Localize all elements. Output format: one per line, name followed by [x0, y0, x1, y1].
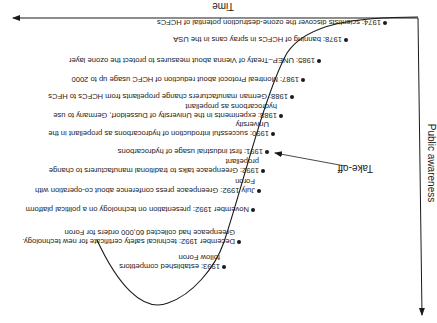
event-marker — [317, 59, 321, 63]
event-marker — [301, 78, 305, 82]
event-label: 1985: UNEP–Treaty of Vienna about measur… — [68, 56, 315, 65]
event-marker — [261, 169, 265, 173]
event-marker — [271, 132, 275, 136]
public-awareness-axis-label: Public awareness — [426, 124, 437, 202]
event-marker — [237, 240, 241, 244]
take-off-arrow — [275, 153, 345, 166]
take-off-label: Take-off — [337, 163, 373, 174]
event-label: 1988: experiments in the University of D… — [53, 102, 277, 120]
event-label: 1993: established competitorsfollow Foro… — [119, 253, 220, 271]
event-marker — [257, 189, 261, 193]
event-marker — [290, 95, 294, 99]
event-marker — [279, 114, 283, 118]
event-label: 1992: Greenpeace talks to traditional ma… — [49, 157, 259, 175]
event-label: 1990: successful introduction of hydroca… — [48, 120, 269, 138]
diagram-rotated-180: Time Public awareness 1974: scientists d… — [0, 0, 437, 323]
event-label: 1987: Montreal Protocol about reduction … — [71, 75, 299, 84]
time-axis-label: Time — [212, 1, 234, 12]
event-label: 1988: German manufacturers change propel… — [48, 92, 288, 101]
event-marker — [265, 150, 269, 154]
event-marker — [222, 265, 226, 269]
event-label: July 1992: Greenpeace press conference a… — [35, 177, 255, 195]
event-marker — [251, 208, 255, 212]
event-label: 1974: scientists discover the ozone-dest… — [157, 18, 381, 27]
event-marker — [344, 38, 348, 42]
event-label: November 1992: presentation on technolog… — [26, 205, 249, 214]
awareness-curve-diagram: Time Public awareness 1974: scientists d… — [0, 0, 437, 323]
event-label: 1978: banning of HCFCs in spray cans in … — [172, 35, 342, 44]
event-label: December 1992: technical safety certific… — [22, 228, 235, 246]
public-awareness-axis — [418, 18, 422, 315]
event-marker — [383, 21, 387, 25]
event-label: 1991: first industrial usage of hydrocar… — [118, 147, 263, 156]
